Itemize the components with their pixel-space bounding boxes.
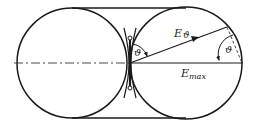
emax-label: Emax [180,67,206,81]
angle-label-left: ϑ [134,47,141,58]
e-theta-label: Eϑ [173,27,190,40]
emax-sub: max [189,72,206,81]
e-theta-arrowhead-icon [191,36,199,42]
emax-main: E [180,67,189,80]
diagram: ϑ ϑ Eϑ Emax [0,0,261,127]
e-theta-main: E [173,27,182,40]
e-theta-sub: ϑ [183,30,190,40]
angle-label-right: ϑ [225,44,232,55]
